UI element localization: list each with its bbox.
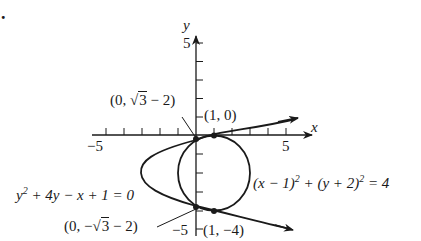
y-tick-label-5: 5 xyxy=(183,36,191,51)
label-upper-intersection: (0, √3 − 2) xyxy=(110,93,175,108)
circle-equation: (x − 1)2 + (y + 2)2 = 4 xyxy=(253,176,389,191)
point-1-0 xyxy=(211,133,217,139)
y-axis-label: y xyxy=(183,18,190,33)
label-lower-intersection: (0, −√3 − 2) xyxy=(64,219,138,234)
x-tick-label-neg5: −5 xyxy=(87,139,103,154)
y-ticks xyxy=(196,43,203,229)
problem-marker: . xyxy=(1,4,6,22)
y-tick-label-neg5: −5 xyxy=(172,223,188,238)
x-axis-label: x xyxy=(311,120,318,135)
point-lower-intersection xyxy=(193,204,199,210)
label-point-1-0: (1, 0) xyxy=(204,108,237,123)
circle-curve xyxy=(178,136,250,211)
point-1-neg4 xyxy=(211,208,217,214)
graph-figure: . y x 5 −5 5 −5 (1, 0) (1, −4) (0, √3 − … xyxy=(0,0,421,241)
x-tick-label-5: 5 xyxy=(282,139,290,154)
parabola-equation: y2 + 4y − x + 1 = 0 xyxy=(16,188,134,203)
point-upper-intersection xyxy=(193,136,199,142)
label-point-1-neg4: (1, −4) xyxy=(203,223,244,238)
